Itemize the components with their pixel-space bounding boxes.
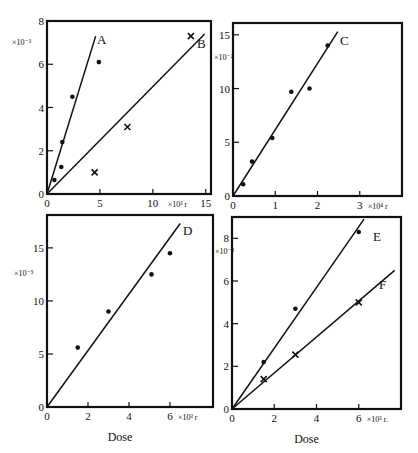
x-tick-label: 2	[85, 410, 91, 422]
y-tick-label: 2	[224, 360, 230, 372]
y-tick-label: 15	[33, 242, 45, 254]
data-point-dot	[168, 251, 173, 256]
x-tick-label: 0	[44, 410, 50, 422]
panel-bottom-left-D: 0510150246×10³ r×10⁻⁵DoseD	[14, 215, 213, 444]
fit-line-C	[233, 32, 338, 196]
curve-label-A: A	[97, 32, 107, 47]
figure-canvas: 02468051015×10³ r×10⁻³AB 0510150123×10⁴ …	[0, 0, 418, 453]
y-tick-label: 5	[39, 348, 45, 360]
fit-line-B	[47, 34, 205, 194]
y-tick-label: 4	[39, 102, 45, 114]
y-tick-label: 8	[39, 15, 45, 27]
x-tick-label: 5	[97, 197, 103, 209]
y-tick-label: 6	[224, 275, 230, 287]
x-unit-label: ×10³ r	[168, 200, 188, 209]
y-multiplier-label: ×10⁻²	[214, 53, 234, 62]
x-tick-label: 0	[229, 412, 235, 424]
y-tick-label: 4	[224, 318, 230, 330]
data-point-dot	[270, 136, 275, 141]
panel-bottom-right-E-F: 024680246×10³ r.×10⁻³DoseEF	[215, 217, 401, 446]
curve-label-F: F	[379, 277, 386, 292]
plot-frame	[233, 23, 402, 196]
y-tick-label: 5	[225, 136, 231, 148]
panel-top-left-A-B: 02468051015×10³ r×10⁻³AB	[12, 15, 212, 209]
plot-frame	[47, 215, 213, 407]
panel-top-right-C: 0510150123×10⁴ r×10⁻²C	[214, 23, 402, 211]
x-tick-label: 15	[200, 197, 212, 209]
x-tick-label: 2	[272, 412, 278, 424]
data-point-dot	[289, 89, 294, 94]
data-point-dot	[261, 360, 266, 365]
data-point-cross	[292, 352, 298, 358]
y-multiplier-label: ×10⁻⁵	[14, 269, 34, 278]
data-point-dot	[52, 178, 57, 183]
x-tick-label: 3	[357, 199, 363, 211]
data-point-dot	[250, 159, 255, 164]
y-multiplier-label: ×10⁻³	[12, 38, 32, 47]
data-point-dot	[70, 94, 75, 99]
data-point-dot	[59, 165, 64, 170]
fit-line-D	[47, 223, 180, 407]
data-point-dot	[241, 182, 246, 187]
data-point-dot	[97, 60, 102, 65]
x-tick-label: 6	[167, 410, 173, 422]
curve-label-D: D	[183, 223, 192, 238]
y-tick-label: 10	[219, 83, 231, 95]
y-tick-label: 2	[39, 145, 45, 157]
x-tick-label: 0	[230, 199, 236, 211]
data-point-dot	[75, 345, 80, 350]
plot-frame	[232, 217, 401, 409]
data-point-cross	[124, 124, 130, 130]
x-tick-label: 0	[44, 197, 50, 209]
x-unit-label: ×10³ r	[178, 413, 198, 422]
data-point-dot	[325, 43, 330, 48]
data-point-dot	[106, 309, 111, 314]
data-point-dot	[60, 140, 65, 145]
data-point-cross	[188, 33, 194, 39]
curve-label-E: E	[373, 229, 381, 244]
curve-label-B: B	[197, 36, 206, 51]
x-tick-label: 4	[314, 412, 320, 424]
x-tick-label: 6	[356, 412, 362, 424]
data-point-cross	[92, 169, 98, 175]
data-point-dot	[356, 230, 361, 235]
x-tick-label: 10	[147, 197, 159, 209]
x-axis-title: Dose	[108, 430, 133, 444]
y-tick-label: 15	[219, 29, 231, 41]
y-multiplier-label: ×10⁻³	[215, 247, 235, 256]
y-tick-label: 8	[224, 232, 230, 244]
data-point-dot	[149, 272, 154, 277]
x-unit-label: ×10⁴ r	[368, 202, 388, 211]
x-tick-label: 1	[273, 199, 279, 211]
x-tick-label: 2	[315, 199, 321, 211]
data-point-dot	[307, 86, 312, 91]
x-tick-label: 4	[126, 410, 132, 422]
data-point-dot	[293, 306, 298, 311]
y-tick-label: 10	[33, 295, 45, 307]
curve-label-C: C	[340, 33, 349, 48]
y-tick-label: 6	[39, 58, 45, 70]
x-axis-title: Dose	[294, 432, 319, 446]
x-unit-label: ×10³ r.	[367, 415, 388, 424]
